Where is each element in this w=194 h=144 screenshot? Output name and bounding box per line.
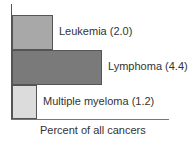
label-multiple-myeloma: Multiple myeloma (1.2) (43, 95, 154, 107)
x-axis (11, 119, 169, 120)
bar-multiple-myeloma (12, 85, 37, 119)
label-leukemia: Leukemia (2.0) (59, 25, 132, 37)
bar-lymphoma (12, 50, 102, 85)
x-axis-label: Percent of all cancers (40, 124, 146, 136)
label-lymphoma: Lymphoma (4.4) (108, 60, 188, 72)
bar-leukemia (12, 15, 53, 50)
